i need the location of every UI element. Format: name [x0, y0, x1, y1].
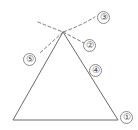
dashed-arc [38, 17, 95, 32]
dashed-ray-left [40, 32, 63, 53]
label-marker-3: ③ [97, 11, 110, 24]
triangle-shape [13, 32, 118, 120]
label-marker-5: ⑤ [23, 53, 36, 66]
label-marker-1: ① [120, 111, 133, 124]
geometry-figure: ① ② ③ ④ ⑤ [0, 0, 138, 130]
label-marker-2: ② [83, 39, 96, 52]
diagram-canvas [0, 0, 138, 130]
label-marker-4: ④ [89, 64, 102, 77]
